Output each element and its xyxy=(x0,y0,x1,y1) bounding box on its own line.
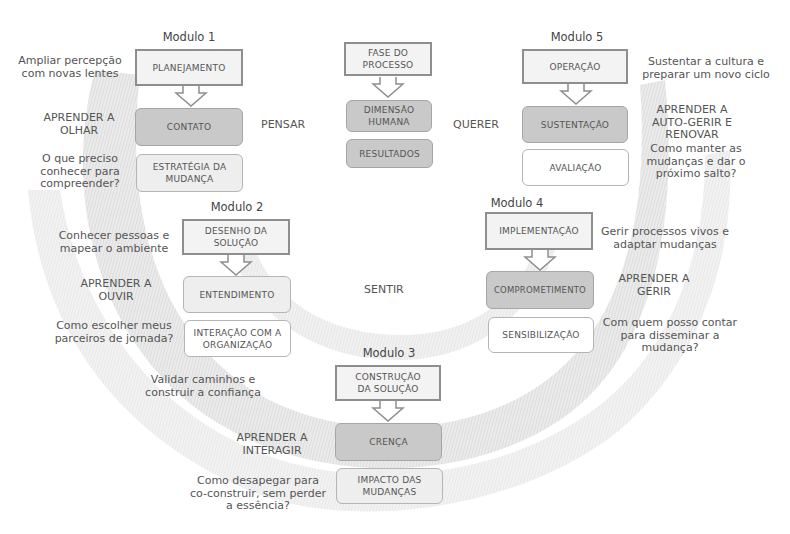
module-3-learn: APRENDER A INTERAGIR xyxy=(232,432,312,457)
module-5-human-label: SUSTENTAÇÃO xyxy=(541,119,609,131)
module-3-goal: Validar caminhos e construir a confiança xyxy=(142,374,264,399)
module-4-title: Modulo 4 xyxy=(472,196,562,210)
module-2-human-label: ENTENDIMENTO xyxy=(199,289,274,301)
module-2-human-box: ENTENDIMENTO xyxy=(183,276,291,313)
module-4-question: Com quem posso contar para disseminar a … xyxy=(600,317,740,355)
module-5-goal: Sustentar a cultura e preparar um novo c… xyxy=(636,56,776,81)
arrow-down-icon xyxy=(371,76,405,98)
module-4-phase-label: IMPLEMENTAÇÃO xyxy=(499,225,579,237)
module-1-phase-label: PLANEJAMENTO xyxy=(152,62,225,74)
arrow-down-icon xyxy=(559,83,593,105)
module-4-result-box: SENSIBILIZAÇÃO xyxy=(488,317,594,353)
legend-results-label: RESULTADOS xyxy=(359,148,420,160)
module-4-goal: Gerir processos vivos e adaptar mudanças xyxy=(600,226,730,251)
module-1-title: Modulo 1 xyxy=(134,30,244,44)
module-1-human-label: CONTATO xyxy=(167,121,211,133)
module-2-title: Modulo 2 xyxy=(182,200,292,214)
module-1-result-label: ESTRATÉGIA DA MUDANÇA xyxy=(147,161,232,185)
dimension-pensar: PENSAR xyxy=(261,118,305,131)
module-1-question: O que preciso conhecer para compreender? xyxy=(34,153,126,191)
module-2-phase-label: DESENHO DA SOLUÇÃO xyxy=(198,225,274,249)
module-5-phase-box: OPERAÇÃO xyxy=(522,49,628,84)
module-1-goal: Ampliar percepção com novas lentes xyxy=(14,55,126,80)
module-2-question: Como escolher meus parceiros de jornada? xyxy=(50,320,178,345)
module-4-human-label: COMPROMETIMENTO xyxy=(494,284,586,296)
module-5-title: Modulo 5 xyxy=(532,30,622,44)
arrow-down-icon xyxy=(174,85,208,107)
module-4-human-box: COMPROMETIMENTO xyxy=(486,271,594,309)
module-3-title: Modulo 3 xyxy=(334,346,444,360)
legend-phase-label: FASE DO PROCESSO xyxy=(346,47,430,71)
module-2-result-label: INTERAÇÃO COM A ORGANIZAÇÃO xyxy=(193,327,282,351)
dimension-sentir: SENTIR xyxy=(364,283,404,296)
module-4-learn: APRENDER A GERIR xyxy=(614,273,694,298)
module-5-phase-label: OPERAÇÃO xyxy=(549,61,600,73)
module-2-learn: APRENDER A OUVIR xyxy=(76,278,156,303)
module-5-human-box: SUSTENTAÇÃO xyxy=(522,106,628,143)
legend-results-box: RESULTADOS xyxy=(346,139,433,168)
module-3-human-label: CRENÇA xyxy=(369,436,408,448)
module-5-result-label: AVALIAÇÃO xyxy=(549,162,601,174)
module-5-learn: APRENDER A AUTO-GERIR E RENOVAR xyxy=(644,104,740,142)
module-1-phase-box: PLANEJAMENTO xyxy=(135,49,243,86)
module-3-result-box: IMPACTO DAS MUDANÇAS xyxy=(336,468,443,504)
module-1-result-box: ESTRATÉGIA DA MUDANÇA xyxy=(136,154,243,192)
module-2-goal: Conhecer pessoas e mapear o ambiente xyxy=(54,230,174,255)
arrow-down-icon xyxy=(523,249,557,271)
module-3-phase-box: CONSTRUÇÃO DA SOLUÇÃO xyxy=(335,365,441,401)
arrow-down-icon xyxy=(371,400,405,422)
legend-phase-box: FASE DO PROCESSO xyxy=(344,42,432,76)
module-3-human-box: CRENÇA xyxy=(335,423,442,461)
arrow-down-icon xyxy=(219,254,253,276)
module-1-human-box: CONTATO xyxy=(135,108,243,146)
legend-human-box: DIMENSÃO HUMANA xyxy=(346,100,432,132)
module-4-result-label: SENSIBILIZAÇÃO xyxy=(502,329,579,341)
legend-human-label: DIMENSÃO HUMANA xyxy=(347,104,431,128)
module-3-question: Como desapegar para co-construir, sem pe… xyxy=(188,475,328,513)
dimension-querer: QUERER xyxy=(453,118,499,131)
module-2-result-box: INTERAÇÃO COM A ORGANIZAÇÃO xyxy=(184,320,291,357)
module-1-learn: APRENDER A OLHAR xyxy=(38,112,120,137)
module-3-result-label: IMPACTO DAS MUDANÇAS xyxy=(355,474,424,498)
module-3-phase-label: CONSTRUÇÃO DA SOLUÇÃO xyxy=(351,371,425,395)
module-4-phase-box: IMPLEMENTAÇÃO xyxy=(485,212,593,250)
module-5-result-box: AVALIAÇÃO xyxy=(522,149,629,186)
module-2-phase-box: DESENHO DA SOLUÇÃO xyxy=(182,219,290,255)
module-5-question: Como manter as mudanças e dar o próximo … xyxy=(640,143,752,181)
